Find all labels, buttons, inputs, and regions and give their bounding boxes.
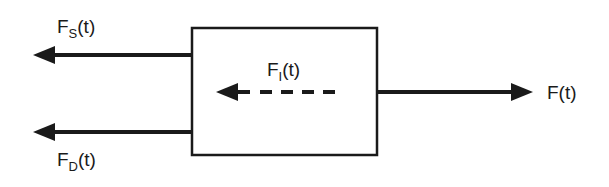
inertia-force-arrow	[216, 83, 342, 101]
spring-force-arrow	[33, 46, 192, 64]
applied-force-arrow	[377, 83, 533, 101]
arrowhead-left-icon	[33, 123, 55, 141]
label-damping-force: FD(t)	[57, 150, 96, 173]
label-spring-force: FS(t)	[57, 17, 95, 40]
arrowhead-left-icon	[33, 46, 55, 64]
label-inertia-force: FI(t)	[267, 60, 300, 83]
arrowhead-left-icon	[216, 83, 238, 101]
damping-force-arrow	[33, 123, 192, 141]
arrowhead-right-icon	[511, 83, 533, 101]
label-applied-force: F(t)	[547, 83, 577, 102]
